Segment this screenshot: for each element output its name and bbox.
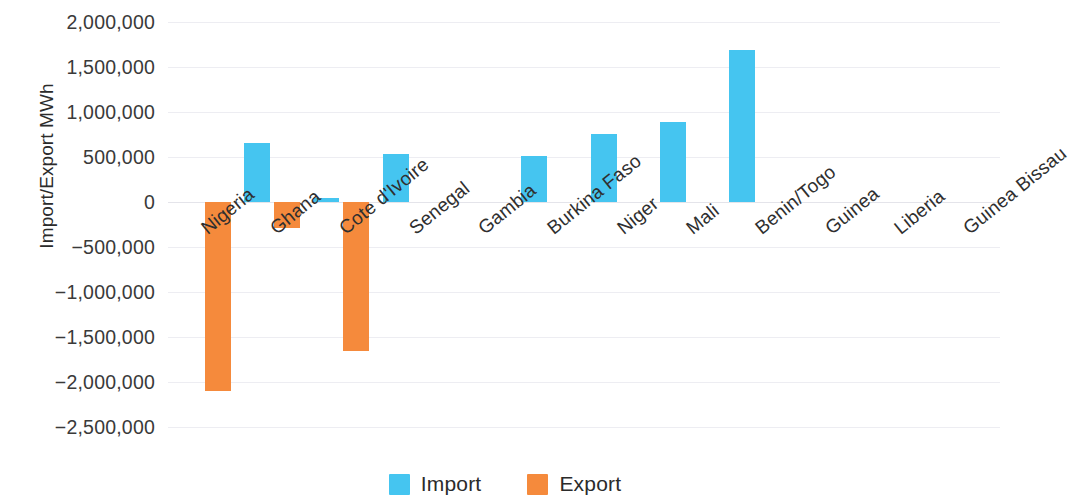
bar-group xyxy=(931,0,1000,470)
bar-group xyxy=(445,0,514,470)
legend-label: Export xyxy=(559,472,621,496)
bar-import[interactable] xyxy=(521,156,547,202)
legend-item[interactable]: Export xyxy=(527,472,621,496)
y-axis-tick-label: 500,000 xyxy=(83,146,155,169)
bar-groups xyxy=(168,0,1000,470)
y-axis-tick-label: 1,500,000 xyxy=(66,56,155,79)
y-axis-tick-label: −1,000,000 xyxy=(55,281,155,304)
y-axis-tick-label: −500,000 xyxy=(72,236,155,259)
y-axis-tick-label: 1,000,000 xyxy=(66,101,155,124)
bar-import[interactable] xyxy=(313,198,339,202)
y-axis-tick-label: 2,000,000 xyxy=(66,11,155,34)
legend-swatch-export xyxy=(527,474,548,495)
y-axis-tick-labels: 2,000,0001,500,0001,000,000500,0000−500,… xyxy=(0,0,168,470)
bar-export[interactable] xyxy=(205,202,231,391)
y-axis-tick-label: −2,000,000 xyxy=(55,371,155,394)
bar-export[interactable] xyxy=(274,202,300,228)
bar-group xyxy=(515,0,584,470)
y-axis-tick-label: −1,500,000 xyxy=(55,326,155,349)
bar-group xyxy=(723,0,792,470)
y-axis-tick-label: 0 xyxy=(144,191,155,214)
y-axis-tick-label: −2,500,000 xyxy=(55,416,155,439)
bar-import[interactable] xyxy=(660,122,686,202)
legend-swatch-import xyxy=(389,474,410,495)
bar-export[interactable] xyxy=(343,202,369,351)
bar-group xyxy=(792,0,861,470)
bar-group xyxy=(307,0,376,470)
bar-group xyxy=(168,0,237,470)
bar-group xyxy=(376,0,445,470)
bar-group xyxy=(237,0,306,470)
bar-import[interactable] xyxy=(244,143,270,202)
bar-group xyxy=(653,0,722,470)
bar-group xyxy=(861,0,930,470)
chart-legend: ImportExport xyxy=(0,472,1010,496)
bar-import[interactable] xyxy=(591,134,617,202)
bar-group xyxy=(584,0,653,470)
plot-area xyxy=(168,0,1000,470)
bar-import[interactable] xyxy=(383,154,409,202)
bar-import[interactable] xyxy=(729,50,755,202)
legend-item[interactable]: Import xyxy=(389,472,482,496)
legend-label: Import xyxy=(421,472,482,496)
